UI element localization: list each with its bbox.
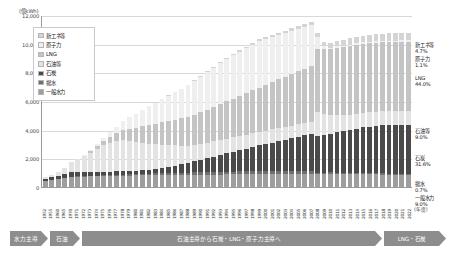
bar-segment	[399, 33, 404, 40]
legend-item[interactable]: 新エネ等	[38, 31, 91, 40]
stacked-bar[interactable]	[160, 99, 165, 187]
bar-segment	[257, 41, 262, 88]
stacked-bar[interactable]	[205, 71, 210, 187]
stacked-bar[interactable]	[173, 92, 178, 187]
stacked-bar[interactable]	[315, 33, 320, 187]
bar-segment	[173, 145, 178, 165]
stacked-bar[interactable]	[387, 33, 392, 187]
stacked-bar[interactable]	[341, 40, 346, 187]
stacked-bar[interactable]	[49, 175, 54, 187]
x-label-slot: 1970	[67, 189, 74, 219]
stacked-bar[interactable]	[257, 39, 262, 187]
x-label-slot: 1985	[165, 189, 172, 219]
bar-segment	[250, 174, 255, 187]
stacked-bar[interactable]	[296, 26, 301, 187]
stacked-bar[interactable]	[134, 114, 139, 187]
bar-segment	[367, 127, 372, 174]
x-label-slot: 2014	[354, 189, 361, 219]
stacked-bar[interactable]	[289, 28, 294, 187]
stacked-bar[interactable]	[108, 132, 113, 187]
stacked-bar[interactable]	[250, 43, 255, 187]
stacked-bar[interactable]	[211, 67, 216, 187]
stacked-bar[interactable]	[88, 150, 93, 187]
stacked-bar[interactable]	[114, 127, 119, 187]
stacked-bar[interactable]	[121, 121, 126, 187]
bar-segment	[205, 175, 210, 187]
stacked-bar[interactable]	[367, 35, 372, 187]
x-axis-tick-label: 2004	[289, 189, 294, 219]
x-label-slot: 1994	[223, 189, 230, 219]
legend-item[interactable]: 石油等	[38, 59, 91, 68]
stacked-bar[interactable]	[192, 80, 197, 187]
stacked-bar[interactable]	[406, 33, 411, 187]
stacked-bar[interactable]	[322, 42, 327, 187]
stacked-bar[interactable]	[302, 24, 307, 187]
x-axis-tick-label: 1981	[139, 189, 144, 219]
bar-segment	[367, 174, 372, 187]
bar-segment	[114, 127, 119, 134]
stacked-bar[interactable]	[186, 85, 191, 187]
stacked-bar[interactable]	[380, 34, 385, 187]
stacked-bar[interactable]	[153, 103, 158, 187]
legend-item[interactable]: 原子力	[38, 40, 91, 49]
stacked-bar[interactable]	[147, 106, 152, 187]
bar-segment	[399, 175, 404, 187]
stacked-bar[interactable]	[101, 138, 106, 187]
stacked-bar[interactable]	[218, 62, 223, 187]
stacked-bar[interactable]	[231, 54, 236, 187]
era-banner-label: 石油主導から石炭・LNG・原子力主導へ	[177, 235, 287, 243]
legend-item[interactable]: LNG	[38, 50, 91, 59]
stacked-bar[interactable]	[399, 33, 404, 187]
bar-segment	[387, 42, 392, 111]
stacked-bar[interactable]	[179, 89, 184, 187]
bar-segment	[186, 175, 191, 187]
bar-segment	[244, 149, 249, 172]
stacked-bar[interactable]	[328, 43, 333, 188]
legend-item[interactable]: 石炭	[38, 69, 91, 78]
stacked-bar[interactable]	[127, 117, 132, 187]
stacked-bar[interactable]	[374, 34, 379, 187]
bar-segment	[218, 104, 223, 140]
legend-item[interactable]: 一般水力	[38, 87, 91, 96]
bar-segment	[374, 34, 379, 41]
share-label-value: 31.6%	[415, 161, 453, 167]
legend-item[interactable]: 揚水	[38, 78, 91, 87]
bar-segment	[153, 175, 158, 187]
stacked-bar[interactable]	[393, 33, 398, 187]
stacked-bar[interactable]	[75, 159, 80, 187]
stacked-bar[interactable]	[270, 35, 275, 187]
legend-swatch-icon	[38, 52, 44, 58]
x-axis-tick-label: 2010	[328, 189, 333, 219]
bar-segment	[114, 133, 119, 141]
stacked-bar[interactable]	[237, 50, 242, 187]
stacked-bar[interactable]	[283, 31, 288, 187]
bar-segment	[237, 174, 242, 187]
bar-segment	[160, 145, 165, 168]
stacked-bar[interactable]	[43, 177, 48, 187]
bar-segment	[192, 81, 197, 115]
stacked-bar[interactable]	[140, 110, 145, 187]
stacked-bar[interactable]	[309, 22, 314, 187]
stacked-bar[interactable]	[198, 76, 203, 187]
bar-segment	[134, 128, 139, 142]
bar-segment	[354, 129, 359, 173]
x-label-slot: 1995	[230, 189, 237, 219]
stacked-bar[interactable]	[244, 47, 249, 187]
stacked-bar[interactable]	[354, 37, 359, 187]
bar-segment	[224, 101, 229, 138]
bar-segment	[179, 146, 184, 165]
stacked-bar[interactable]	[95, 144, 100, 187]
stacked-bar[interactable]	[69, 162, 74, 187]
stacked-bar[interactable]	[56, 172, 61, 187]
x-axis-tick-label: 2020	[394, 189, 399, 219]
stacked-bar[interactable]	[224, 58, 229, 187]
stacked-bar[interactable]	[348, 38, 353, 187]
x-label-slot: 1992	[210, 189, 217, 219]
stacked-bar[interactable]	[335, 41, 340, 187]
stacked-bar[interactable]	[276, 33, 281, 187]
stacked-bar[interactable]	[361, 36, 366, 188]
stacked-bar[interactable]	[62, 168, 67, 187]
stacked-bar[interactable]	[166, 95, 171, 187]
stacked-bar[interactable]	[82, 155, 87, 187]
stacked-bar[interactable]	[263, 37, 268, 187]
